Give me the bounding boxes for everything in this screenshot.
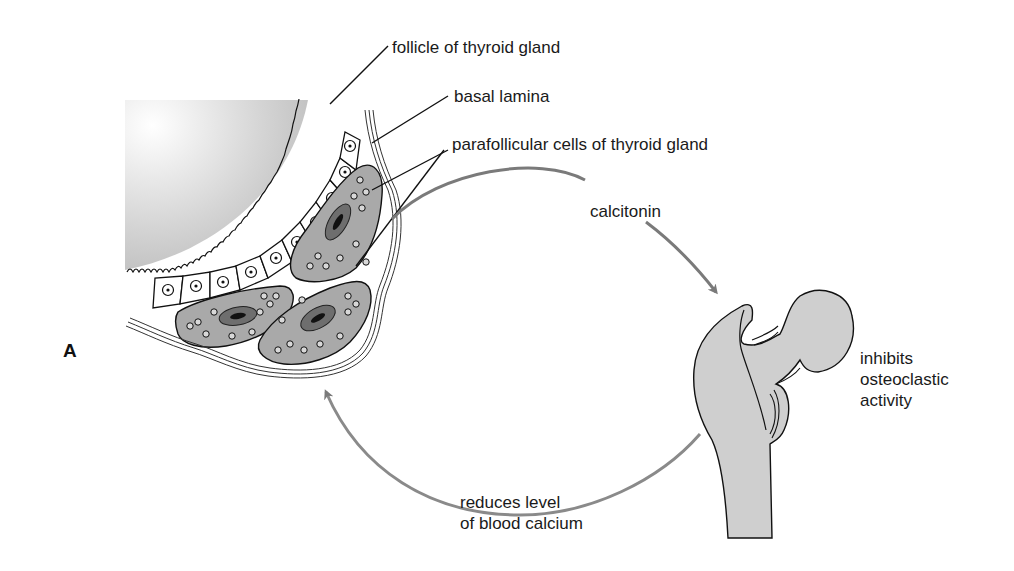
label-follicle: follicle of thyroid gland — [392, 37, 560, 58]
leader-follicle — [330, 46, 388, 104]
femur-icon — [694, 290, 854, 538]
label-parafollicular: parafollicular cells of thyroid gland — [452, 134, 708, 155]
calcitonin-arrow-tip — [646, 222, 716, 292]
leader-basal-lamina — [372, 96, 448, 143]
label-calcitonin: calcitonin — [590, 201, 661, 222]
label-basal-lamina: basal lamina — [454, 86, 549, 107]
calcitonin-arrow — [392, 168, 585, 219]
label-blood-effect: reduces level of blood calcium — [460, 492, 583, 534]
panel-letter: A — [63, 340, 77, 362]
label-bone-effect: inhibits osteoclastic activity — [860, 348, 949, 411]
